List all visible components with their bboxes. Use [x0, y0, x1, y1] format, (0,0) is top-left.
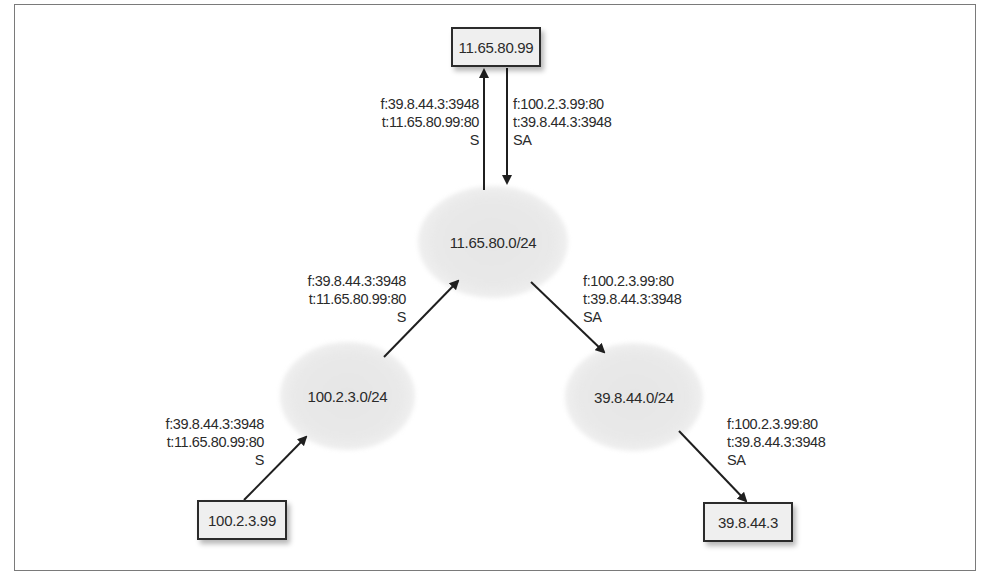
packet-to: t:11.65.80.99:80 [282, 290, 406, 308]
packet-flags: S [140, 451, 264, 469]
packet-flags: SA [583, 308, 681, 326]
packet-from: f:100.2.3.99:80 [583, 272, 681, 290]
host-box-receiver: 39.8.44.3 [703, 502, 793, 542]
packet-flags: SA [513, 131, 611, 149]
packet-from: f:39.8.44.3:3948 [140, 415, 264, 433]
host-label: 39.8.44.3 [718, 514, 778, 531]
packet-to: t:11.65.80.99:80 [355, 113, 479, 131]
host-box-server: 11.65.80.99 [451, 27, 541, 67]
packet-from: f:100.2.3.99:80 [727, 415, 825, 433]
packet-from: f:100.2.3.99:80 [513, 95, 611, 113]
packet-label-client-to-client-net: f:39.8.44.3:3948 t:11.65.80.99:80 S [140, 415, 264, 469]
packet-label-receiver-net-to-receiver: f:100.2.3.99:80 t:39.8.44.3:3948 SA [727, 415, 825, 469]
packet-to: t:11.65.80.99:80 [140, 433, 264, 451]
host-box-client: 100.2.3.99 [197, 500, 287, 540]
connection-arrows [0, 0, 987, 581]
host-label: 11.65.80.99 [459, 39, 534, 56]
packet-from: f:39.8.44.3:3948 [282, 272, 406, 290]
packet-label-server-to-server-net: f:100.2.3.99:80 t:39.8.44.3:3948 SA [513, 95, 611, 149]
packet-to: t:39.8.44.3:3948 [727, 433, 825, 451]
packet-to: t:39.8.44.3:3948 [513, 113, 611, 131]
packet-from: f:39.8.44.3:3948 [355, 95, 479, 113]
packet-label-client-net-to-server-net: f:39.8.44.3:3948 t:11.65.80.99:80 S [282, 272, 406, 326]
packet-label-server-net-to-receiver-net: f:100.2.3.99:80 t:39.8.44.3:3948 SA [583, 272, 681, 326]
packet-flags: S [282, 308, 406, 326]
packet-label-server-net-to-server: f:39.8.44.3:3948 t:11.65.80.99:80 S [355, 95, 479, 149]
host-label: 100.2.3.99 [208, 512, 276, 529]
packet-flags: SA [727, 451, 825, 469]
packet-flags: S [355, 131, 479, 149]
packet-to: t:39.8.44.3:3948 [583, 290, 681, 308]
